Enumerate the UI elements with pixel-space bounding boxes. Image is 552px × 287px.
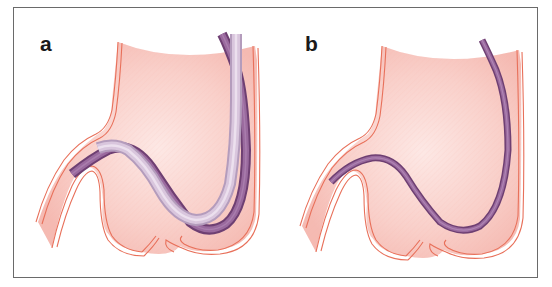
panel-label-b: b	[305, 33, 318, 54]
figure: a b	[0, 0, 552, 287]
illustration	[0, 0, 552, 287]
panel-b-stomach	[300, 46, 524, 260]
panel-label-a: a	[40, 33, 52, 54]
